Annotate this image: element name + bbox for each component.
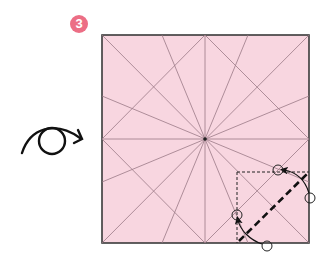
center-point <box>203 137 207 141</box>
diagram-canvas <box>0 0 326 261</box>
origami-step-diagram: 3 <box>0 0 326 261</box>
flip-over-icon <box>22 128 82 154</box>
